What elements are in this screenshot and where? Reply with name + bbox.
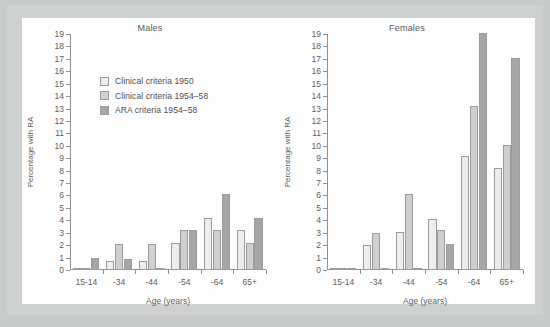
bar	[511, 58, 519, 270]
bar	[413, 268, 421, 270]
bar	[222, 194, 230, 270]
y-tick-mark	[323, 109, 327, 110]
y-axis-line-females	[327, 34, 328, 270]
bar	[237, 230, 245, 270]
plot-area-females: Percentage with RA Age (years) 012345678…	[327, 34, 523, 270]
y-tick-label: 8	[59, 166, 64, 175]
y-tick-label: 12	[55, 117, 64, 126]
y-tick-label: 5	[316, 204, 321, 213]
bar	[180, 230, 188, 270]
x-tick-mark	[425, 270, 426, 274]
bar	[405, 194, 413, 270]
bar	[479, 33, 487, 270]
y-tick-mark	[323, 121, 327, 122]
y-tick-mark	[66, 71, 70, 72]
y-tick-mark	[323, 59, 327, 60]
y-axis-label-males: Percentage with RA	[26, 117, 35, 188]
bar	[254, 218, 262, 270]
y-tick-label: 15	[312, 79, 321, 88]
y-tick-mark	[66, 46, 70, 47]
y-tick-label: 2	[59, 241, 64, 250]
x-tick-label: -64	[468, 277, 480, 287]
bar	[156, 268, 164, 270]
x-tick-label: -44	[403, 277, 415, 287]
y-tick-mark	[323, 258, 327, 259]
x-tick-label: 15-14	[332, 277, 354, 287]
y-tick-label: 9	[59, 154, 64, 163]
legend-label-series-1: Clinical criteria 1950	[115, 76, 194, 86]
bar	[139, 261, 147, 270]
legend-swatch-icon-series-2	[100, 91, 109, 100]
x-tick-label: 15-14	[75, 277, 97, 287]
bar	[396, 232, 404, 270]
y-tick-mark	[323, 96, 327, 97]
bar	[348, 268, 356, 270]
y-tick-mark	[66, 195, 70, 196]
x-tick-mark	[490, 270, 491, 274]
y-tick-label: 14	[55, 92, 64, 101]
bar	[437, 230, 445, 270]
bar	[213, 230, 221, 270]
y-tick-label: 0	[59, 266, 64, 275]
bar	[446, 244, 454, 270]
y-tick-label: 19	[55, 30, 64, 39]
y-tick-mark	[66, 245, 70, 246]
y-tick-mark	[66, 171, 70, 172]
y-tick-mark	[323, 245, 327, 246]
y-tick-mark	[323, 146, 327, 147]
y-tick-label: 12	[312, 117, 321, 126]
x-tick-label: -54	[178, 277, 190, 287]
bar	[148, 244, 156, 270]
y-tick-mark	[66, 183, 70, 184]
legend-swatch-icon-series-3	[100, 106, 109, 115]
y-tick-mark	[323, 71, 327, 72]
y-tick-label: 3	[316, 228, 321, 237]
y-tick-mark	[323, 195, 327, 196]
bar	[115, 244, 123, 270]
bar	[189, 230, 197, 270]
y-tick-label: 7	[59, 179, 64, 188]
x-tick-mark	[360, 270, 361, 274]
x-tick-mark	[135, 270, 136, 274]
bar	[246, 243, 254, 270]
y-tick-mark	[66, 258, 70, 259]
x-tick-mark	[103, 270, 104, 274]
y-tick-mark	[323, 183, 327, 184]
y-tick-label: 16	[55, 67, 64, 76]
y-tick-mark	[66, 158, 70, 159]
y-tick-mark	[323, 46, 327, 47]
panel-females: Females Percentage with RA Age (years) 0…	[279, 18, 535, 304]
bar	[73, 268, 81, 270]
y-tick-label: 15	[55, 79, 64, 88]
x-tick-label: -34	[113, 277, 125, 287]
y-tick-mark	[323, 220, 327, 221]
y-tick-mark	[66, 34, 70, 35]
y-tick-label: 8	[316, 166, 321, 175]
legend-label-series-2: Clinical criteria 1954–58	[115, 91, 208, 101]
y-tick-label: 18	[55, 42, 64, 51]
figure-canvas: Males Percentage with RA Age (years) 012…	[22, 18, 535, 304]
y-tick-label: 11	[55, 129, 64, 138]
bar	[171, 243, 179, 270]
y-tick-label: 14	[312, 92, 321, 101]
y-tick-mark	[323, 84, 327, 85]
y-tick-mark	[66, 96, 70, 97]
y-tick-label: 10	[312, 142, 321, 151]
bar	[124, 259, 132, 270]
y-tick-mark	[323, 171, 327, 172]
legend-item-ara-1954-58: ARA criteria 1954–58	[100, 105, 208, 115]
y-tick-label: 0	[316, 266, 321, 275]
y-tick-mark	[66, 59, 70, 60]
x-tick-mark	[523, 270, 524, 274]
legend-label-series-3: ARA criteria 1954–58	[115, 105, 197, 115]
y-tick-label: 10	[55, 142, 64, 151]
y-axis-label-females: Percentage with RA	[283, 117, 292, 188]
y-tick-label: 19	[312, 30, 321, 39]
y-tick-label: 13	[312, 104, 321, 113]
x-tick-mark	[201, 270, 202, 274]
figure-frame: Males Percentage with RA Age (years) 012…	[7, 5, 543, 315]
bar	[428, 219, 436, 270]
x-tick-mark	[233, 270, 234, 274]
bar	[91, 258, 99, 270]
legend-item-clinical-1950: Clinical criteria 1950	[100, 76, 208, 86]
